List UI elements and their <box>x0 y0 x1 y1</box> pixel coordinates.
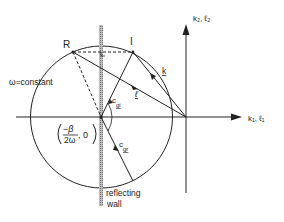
cgi-label: c gi <box>112 96 121 108</box>
k1-l1-label: k₁, ℓ₁ <box>248 114 265 123</box>
l-label: ℓ <box>134 89 138 99</box>
svg-text:gi: gi <box>116 102 121 108</box>
svg-text:2ω: 2ω <box>64 135 76 145</box>
svg-text:gr: gr <box>123 146 128 152</box>
point-i <box>132 51 135 54</box>
arrow-up-icon <box>183 24 190 35</box>
point-r <box>71 50 74 53</box>
arrow-right-icon <box>231 114 242 121</box>
center-coordinate-label: −β 2ω , 0 <box>58 124 96 145</box>
k1-axis <box>16 114 242 121</box>
omega-constant-label: ω=constant <box>9 77 53 87</box>
l-vector-line <box>73 52 186 117</box>
reflection-diagram: R I ω=constant k₁, ℓ₁ k₂, ℓ₂ k ℓ c gi c … <box>0 0 284 222</box>
label-i: I <box>130 36 133 47</box>
k2-axis <box>183 24 190 193</box>
cgr-label: c gr <box>119 140 128 152</box>
svg-text:, 0: , 0 <box>78 130 88 140</box>
wall-label-line1: reflecting <box>106 188 141 198</box>
k-vector-line <box>133 52 186 117</box>
k-label: k <box>162 66 167 76</box>
k2-l2-label: k₂, ℓ₂ <box>193 14 210 23</box>
svg-text:−β: −β <box>63 124 73 134</box>
wall-label-line2: wall <box>106 199 122 209</box>
label-r: R <box>63 39 70 50</box>
center-point <box>99 115 103 119</box>
dashed-line-r-center <box>73 52 101 117</box>
